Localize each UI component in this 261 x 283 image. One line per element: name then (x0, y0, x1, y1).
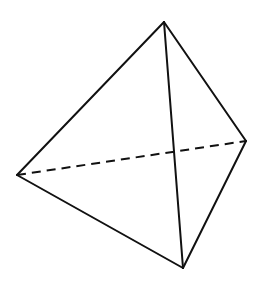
edge-left-bottom (17, 175, 183, 268)
edge-right-bottom (183, 141, 246, 268)
tetrahedron-edges (17, 22, 246, 268)
edge-top-left (17, 22, 164, 175)
edge-left-right-hidden (17, 141, 246, 175)
edge-top-right (164, 22, 246, 141)
edge-top-bottom (164, 22, 183, 268)
tetrahedron-diagram (0, 0, 261, 283)
